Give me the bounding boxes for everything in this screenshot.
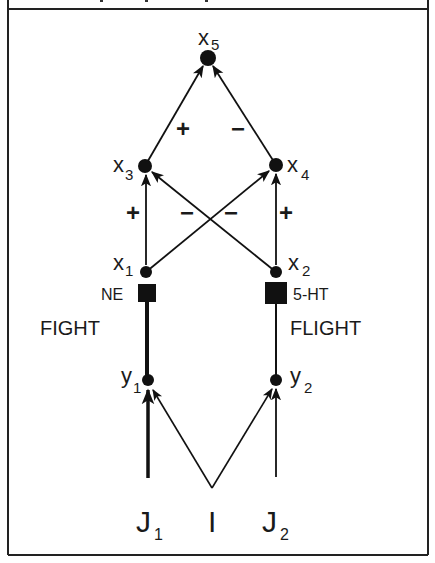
input-j2: J2 (262, 505, 289, 543)
node-x5: x5 (198, 25, 219, 66)
sign-x2-x4: + (279, 199, 293, 226)
5ht-gate-square (265, 282, 287, 304)
transmitter-ne: NE (101, 284, 156, 303)
5ht-label: 5-HT (293, 286, 329, 303)
node-x2-label: x2 (288, 250, 310, 279)
sign-x3-x5: + (176, 115, 190, 142)
node-x4-label: x4 (287, 152, 309, 183)
sign-x1-x3: + (126, 199, 140, 226)
input-j2-label: J2 (262, 505, 289, 543)
sign-x1-x4: − (224, 199, 238, 226)
sign-x4-x5: − (231, 115, 245, 142)
node-x5-label: x5 (198, 25, 219, 53)
node-x3-dot (138, 159, 152, 173)
flight-label: FLIGHT (290, 317, 361, 339)
pathway-edges (147, 300, 276, 380)
input-i: I (208, 505, 216, 538)
fight-flight-circuit-diagram: x5 x3 x4 x1 x2 y1 y2 NE 5-HT FIGHT FLIGH… (0, 0, 435, 563)
node-x1-dot (140, 266, 152, 278)
node-x3-label: x3 (113, 152, 133, 183)
node-y1-label: y1 (121, 363, 141, 396)
input-j1: J1 (136, 505, 163, 543)
node-x1-label: x1 (113, 250, 133, 279)
node-y1-dot (142, 374, 154, 386)
input-edges (148, 389, 276, 488)
figure-frame (8, 0, 428, 555)
node-y2-label: y2 (290, 363, 312, 396)
ne-label: NE (101, 286, 123, 303)
node-x4-dot (269, 158, 283, 172)
edges-to-x5 (145, 66, 276, 166)
edges-to-x3-x4 (146, 171, 276, 272)
input-j1-label: J1 (136, 505, 163, 543)
node-x2-dot (270, 266, 282, 278)
input-i-label: I (208, 505, 216, 538)
fight-label: FIGHT (40, 317, 100, 339)
ne-gate-square (138, 284, 156, 302)
transmitter-5ht: 5-HT (265, 282, 329, 304)
node-x4: x4 (269, 152, 309, 183)
sign-x2-x3: − (180, 199, 194, 226)
node-y2-dot (270, 374, 282, 386)
